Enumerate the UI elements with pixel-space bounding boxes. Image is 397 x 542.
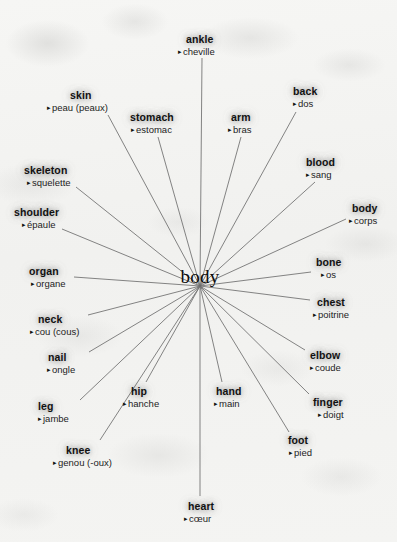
headword-neck: neck — [38, 313, 79, 325]
node-hip[interactable]: hip▸hanche — [131, 385, 159, 410]
spoke-line-hand — [200, 286, 222, 382]
headword-leg: leg — [38, 400, 69, 412]
spoke-line-arm — [200, 137, 241, 286]
node-elbow[interactable]: elbow▸coude — [310, 349, 341, 374]
node-knee[interactable]: knee▸genou (-oux) — [66, 444, 112, 469]
center-node-body[interactable]: body — [181, 266, 220, 288]
headword-body: body — [352, 202, 377, 214]
translation-leg: ▸jambe — [38, 413, 69, 425]
triangle-bullet-icon: ▸ — [22, 221, 26, 228]
headword-arm: arm — [231, 111, 251, 123]
translation-text-bone: os — [326, 269, 336, 280]
translation-text-leg: jambe — [43, 413, 69, 424]
node-foot[interactable]: foot▸pied — [288, 434, 312, 459]
node-hand[interactable]: hand▸main — [216, 385, 241, 410]
spoke-line-hip — [146, 286, 200, 382]
translation-text-chest: poitrine — [318, 309, 349, 320]
headword-shoulder: shoulder — [14, 206, 59, 218]
triangle-bullet-icon: ▸ — [27, 179, 31, 186]
translation-text-ankle: cheville — [183, 46, 215, 57]
node-stomach[interactable]: stomach▸estomac — [130, 111, 174, 136]
translation-neck: ▸cou (cous) — [30, 326, 79, 338]
headword-foot: foot — [288, 434, 312, 446]
translation-text-shoulder: épaule — [27, 219, 56, 230]
triangle-bullet-icon: ▸ — [310, 364, 314, 371]
node-neck[interactable]: neck▸cou (cous) — [38, 313, 79, 338]
translation-knee: ▸genou (-oux) — [53, 457, 112, 469]
triangle-bullet-icon: ▸ — [38, 415, 42, 422]
translation-text-back: dos — [298, 98, 313, 109]
spoke-line-foot — [200, 286, 289, 432]
triangle-bullet-icon: ▸ — [178, 48, 182, 55]
headword-finger: finger — [313, 396, 344, 408]
node-leg[interactable]: leg▸jambe — [38, 400, 69, 425]
triangle-bullet-icon: ▸ — [293, 100, 297, 107]
node-body[interactable]: body▸corps — [352, 202, 377, 227]
triangle-bullet-icon: ▸ — [228, 126, 232, 133]
translation-bone: ▸os — [321, 269, 341, 281]
spoke-line-skin — [108, 115, 200, 286]
triangle-bullet-icon: ▸ — [47, 104, 51, 111]
translation-chest: ▸poitrine — [313, 309, 349, 321]
node-heart[interactable]: heart▸cœur — [188, 500, 214, 525]
translation-text-organ: organe — [36, 278, 66, 289]
spoke-line-knee — [100, 286, 200, 440]
headword-ankle: ankle — [186, 33, 215, 45]
translation-text-nail: ongle — [52, 364, 75, 375]
node-finger[interactable]: finger▸doigt — [313, 396, 344, 421]
headword-knee: knee — [66, 444, 112, 456]
translation-text-heart: cœur — [189, 513, 211, 524]
translation-text-stomach: estomac — [136, 124, 172, 135]
translation-back: ▸dos — [293, 98, 317, 110]
triangle-bullet-icon: ▸ — [123, 400, 127, 407]
headword-hip: hip — [131, 385, 159, 397]
node-bone[interactable]: bone▸os — [316, 256, 341, 281]
headword-stomach: stomach — [130, 111, 174, 123]
translation-text-foot: pied — [294, 447, 312, 458]
translation-heart: ▸cœur — [184, 513, 214, 525]
translation-text-skeleton: squelette — [32, 177, 71, 188]
translation-elbow: ▸coude — [310, 362, 341, 374]
node-shoulder[interactable]: shoulder▸épaule — [14, 206, 59, 231]
node-back[interactable]: back▸dos — [293, 85, 317, 110]
translation-foot: ▸pied — [289, 447, 312, 459]
translation-text-hip: hanche — [128, 398, 159, 409]
headword-chest: chest — [317, 296, 349, 308]
translation-nail: ▸ongle — [47, 364, 75, 376]
translation-skeleton: ▸squelette — [27, 177, 71, 189]
node-chest[interactable]: chest▸poitrine — [317, 296, 349, 321]
spoke-line-elbow — [200, 286, 305, 350]
node-arm[interactable]: arm▸bras — [231, 111, 251, 136]
triangle-bullet-icon: ▸ — [313, 311, 317, 318]
triangle-bullet-icon: ▸ — [30, 328, 34, 335]
translation-shoulder: ▸épaule — [22, 219, 59, 231]
translation-text-body: corps — [354, 215, 377, 226]
headword-elbow: elbow — [310, 349, 341, 361]
translation-ankle: ▸cheville — [178, 46, 215, 58]
spoke-line-leg — [80, 286, 200, 400]
triangle-bullet-icon: ▸ — [31, 280, 35, 287]
node-nail[interactable]: nail▸ongle — [48, 351, 75, 376]
translation-skin: ▸peau (peaux) — [47, 102, 108, 114]
translation-blood: ▸sang — [306, 169, 335, 181]
node-ankle[interactable]: ankle▸cheville — [186, 33, 215, 58]
translation-text-neck: cou (cous) — [35, 326, 79, 337]
spoke-line-neck — [88, 286, 200, 315]
node-organ[interactable]: organ▸organe — [29, 265, 66, 290]
translation-text-blood: sang — [311, 169, 332, 180]
spoke-line-nail — [89, 286, 200, 352]
node-skin[interactable]: skin▸peau (peaux) — [70, 89, 108, 114]
translation-text-elbow: coude — [315, 362, 341, 373]
translation-arm: ▸bras — [228, 124, 251, 136]
translation-text-knee: genou (-oux) — [58, 457, 112, 468]
translation-hand: ▸main — [214, 398, 241, 410]
translation-text-skin: peau (peaux) — [52, 102, 108, 113]
triangle-bullet-icon: ▸ — [184, 515, 188, 522]
spoke-line-back — [200, 112, 296, 286]
triangle-bullet-icon: ▸ — [321, 271, 325, 278]
triangle-bullet-icon: ▸ — [47, 366, 51, 373]
node-blood[interactable]: blood▸sang — [306, 156, 335, 181]
node-skeleton[interactable]: skeleton▸squelette — [24, 164, 71, 189]
headword-hand: hand — [216, 385, 241, 397]
triangle-bullet-icon: ▸ — [306, 171, 310, 178]
